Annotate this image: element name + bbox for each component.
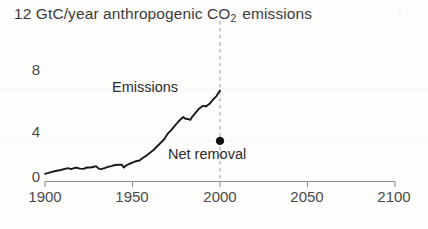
- net-removal-point-marker: [216, 137, 224, 145]
- x-axis-ticks: [45, 182, 395, 188]
- emissions-annotation-label: Emissions: [112, 79, 178, 95]
- chart-plot-area: [0, 0, 428, 229]
- net-removal-annotation-label: Net removal: [168, 146, 246, 162]
- chart-figure: 12 GtC/year anthropogenic CO2 emissions …: [0, 0, 428, 229]
